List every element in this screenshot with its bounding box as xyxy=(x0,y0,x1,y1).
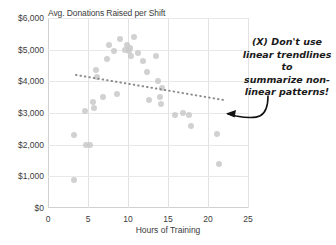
annotation-line: (X) Don't use xyxy=(238,36,336,49)
x-axis-tick-label: 5 xyxy=(86,214,91,224)
plot-area xyxy=(48,18,248,208)
y-axis-tick-label: $0 xyxy=(0,203,44,213)
x-axis-title: Hours of Training xyxy=(0,225,336,235)
x-axis-tick-label: 10 xyxy=(123,214,132,224)
annotation-line: linear trendlines to xyxy=(238,49,336,74)
annotation-line: linear patterns! xyxy=(238,86,336,99)
y-axis-tick-label: $5,000 xyxy=(0,45,44,55)
annotation-line: summarize non- xyxy=(238,74,336,87)
x-axis-tick-label: 15 xyxy=(163,214,172,224)
annotation-text: (X) Don't uselinear trendlines tosummari… xyxy=(238,36,336,99)
y-axis-tick-label: $3,000 xyxy=(0,108,44,118)
y-axis-tick-label: $1,000 xyxy=(0,171,44,181)
scatter-chart: Avg. Donations Raised per Shift Avg. Don… xyxy=(0,0,336,245)
linear-trendline xyxy=(48,18,248,208)
y-axis-tick-label: $2,000 xyxy=(0,140,44,150)
y-axis-title: Avg. Donations Raised per Shift xyxy=(48,8,165,18)
y-axis-tick-label: $6,000 xyxy=(0,13,44,23)
x-axis-tick-label: 0 xyxy=(46,214,51,224)
x-axis-tick-label: 20 xyxy=(203,214,212,224)
x-axis-tick-label: 25 xyxy=(243,214,252,224)
y-axis-tick-label: $4,000 xyxy=(0,76,44,86)
